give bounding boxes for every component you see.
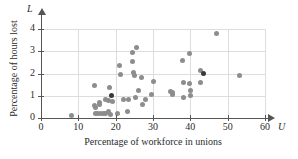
y-tick-label: 1: [22, 89, 35, 100]
y-axis-arrow-icon: [38, 8, 46, 15]
data-point: [130, 59, 135, 64]
data-point: [110, 99, 115, 104]
data-point: [130, 50, 135, 55]
y-axis-symbol: L: [27, 3, 33, 14]
data-point: [188, 93, 193, 98]
data-point: [187, 51, 192, 56]
y-tick-mark: [38, 51, 44, 52]
data-point: [92, 83, 97, 88]
x-tick-label: 10: [66, 121, 90, 132]
data-point: [187, 81, 192, 86]
y-tick-label: 4: [22, 22, 35, 33]
data-point: [136, 88, 141, 93]
data-point: [97, 102, 102, 107]
data-point: [188, 88, 193, 93]
data-point: [134, 45, 139, 50]
x-axis-line: [41, 118, 269, 119]
scatter-plot-figure: 010203040506001234 U L Percentage of wor…: [0, 0, 298, 159]
data-point: [107, 85, 112, 90]
data-point: [140, 102, 145, 107]
x-tick-label: 0: [29, 121, 53, 132]
data-point: [126, 97, 131, 102]
gridline-horizontal: [41, 29, 265, 30]
gridline-vertical: [265, 29, 266, 118]
x-tick-label: 60: [253, 121, 277, 132]
x-tick-label: 30: [141, 121, 165, 132]
y-tick-mark: [38, 96, 44, 97]
data-point: [109, 93, 114, 98]
data-point: [201, 71, 206, 76]
y-tick-label: 0: [22, 111, 35, 122]
x-tick-label: 50: [216, 121, 240, 132]
data-point: [108, 112, 113, 117]
y-axis-title: Percentage of hours lost: [8, 9, 19, 129]
x-tick-label: 40: [178, 121, 202, 132]
data-point: [198, 80, 203, 85]
y-tick-mark: [38, 118, 44, 119]
data-point: [125, 109, 130, 114]
data-point: [151, 79, 156, 84]
data-point: [180, 58, 185, 63]
data-point: [117, 63, 122, 68]
gridline-horizontal: [41, 74, 265, 75]
data-point: [181, 80, 186, 85]
data-point: [237, 73, 242, 78]
data-point: [132, 73, 137, 78]
data-point: [214, 31, 219, 36]
y-tick-mark: [38, 74, 44, 75]
y-tick-label: 2: [22, 67, 35, 78]
x-axis-title: Percentage of workforce in unions: [41, 136, 265, 147]
data-point: [118, 72, 123, 77]
gridline-horizontal: [41, 51, 265, 52]
y-tick-mark: [38, 29, 44, 30]
data-point: [181, 95, 186, 100]
x-tick-label: 20: [104, 121, 128, 132]
data-point: [139, 75, 144, 80]
x-axis-symbol: U: [278, 121, 285, 132]
y-tick-label: 3: [22, 44, 35, 55]
plot-area: [41, 29, 265, 118]
data-point: [143, 97, 148, 102]
data-point: [133, 95, 138, 100]
